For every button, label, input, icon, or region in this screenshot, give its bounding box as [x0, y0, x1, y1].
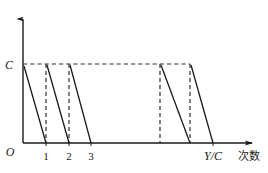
replenishment-lines-group — [46, 64, 190, 143]
axes-group — [23, 19, 252, 143]
x-tick-label-3: 3 — [88, 150, 94, 162]
x-tick-label-y-over-c: Y/C — [204, 149, 223, 163]
x-tick-label-2: 2 — [66, 150, 72, 162]
depletion-slope — [191, 65, 213, 143]
depletion-slope — [70, 65, 91, 143]
depletion-slope — [161, 65, 190, 143]
depletion-slope — [24, 66, 46, 143]
inventory-sawtooth-figure: C O 1 2 3 Y/C 次数 — [0, 0, 268, 173]
y-axis-capacity-label: C — [5, 58, 14, 72]
x-tick-label-1: 1 — [43, 150, 49, 162]
origin-label: O — [6, 145, 15, 159]
x-axis-title: 次数 — [238, 149, 260, 163]
depletion-slope — [47, 65, 69, 143]
chart-canvas: C O 1 2 3 Y/C 次数 — [0, 0, 268, 173]
depletion-curve-group — [24, 65, 213, 143]
